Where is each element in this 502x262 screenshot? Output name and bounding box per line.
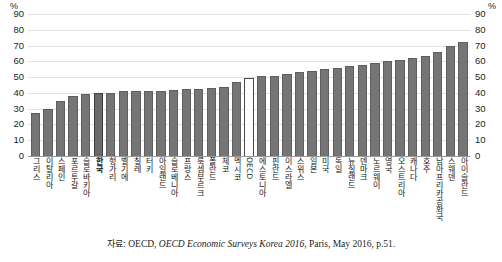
y-tick-left-90: 90 xyxy=(13,9,24,19)
x-label-헝가리: 헝가리 xyxy=(106,157,115,181)
bar-slot xyxy=(318,14,331,156)
x-label-스페인: 스페인 xyxy=(56,157,65,181)
bar-노르웨이 xyxy=(370,63,379,156)
y-tick-right-30: 30 xyxy=(475,104,486,114)
source-prefix: 자료: xyxy=(107,239,126,249)
x-label-룩셈부르크: 룩셈부르크 xyxy=(195,157,204,197)
y-axis-unit-right: % xyxy=(488,1,496,11)
label-slot: 멕시코 xyxy=(230,157,243,229)
bar-slot xyxy=(331,14,344,156)
bar-프랑스 xyxy=(182,89,191,156)
label-slot: 캐나다 xyxy=(406,157,419,229)
label-slot: 일본 xyxy=(306,157,319,229)
bar-slot xyxy=(281,14,294,156)
label-slot: 스페인 xyxy=(54,157,67,229)
bar-체코 xyxy=(219,87,228,156)
x-label-아일랜드: 아일랜드 xyxy=(157,157,166,189)
x-label-일본: 일본 xyxy=(308,157,317,173)
bar-한국 xyxy=(94,93,103,156)
bar-헝가리 xyxy=(106,93,115,156)
x-label-뉴질랜드: 뉴질랜드 xyxy=(345,157,354,189)
x-label-스위스: 스위스 xyxy=(295,157,304,181)
bar-룩셈부르크 xyxy=(194,89,203,156)
x-label-남아프리카공화국: 남아프리카공화국 xyxy=(433,157,442,221)
x-label-오스트리아: 오스트리아 xyxy=(396,157,405,197)
bar-slot xyxy=(205,14,218,156)
label-slot: 독일 xyxy=(331,157,344,229)
bar-slot xyxy=(230,14,243,156)
y-tick-right-40: 40 xyxy=(475,88,486,98)
y-tick-right-50: 50 xyxy=(475,72,486,82)
x-label-스웨덴: 스웨덴 xyxy=(446,157,455,181)
label-slot: 스웨덴 xyxy=(444,157,457,229)
bar-슬로베니아 xyxy=(169,90,178,156)
label-slot: 체코 xyxy=(218,157,231,229)
bar-터키 xyxy=(144,91,153,156)
x-label-칠레: 칠레 xyxy=(132,157,141,173)
bar-영국 xyxy=(383,61,392,156)
x-label-독일: 독일 xyxy=(333,157,342,173)
bar-폴란드 xyxy=(207,88,216,156)
y-tick-right-20: 20 xyxy=(475,119,486,129)
label-slot: OECD xyxy=(243,157,256,229)
label-slot: 폴란드 xyxy=(205,157,218,229)
bar-핀란드 xyxy=(270,76,279,156)
bar-slot xyxy=(218,14,231,156)
y-tick-right-70: 70 xyxy=(475,41,486,51)
y-tick-right-60: 60 xyxy=(475,56,486,66)
bar-slot xyxy=(180,14,193,156)
x-label-캐나다: 캐나다 xyxy=(408,157,417,181)
x-label-터키: 터키 xyxy=(144,157,153,173)
y-tick-left-70: 70 xyxy=(13,41,24,51)
bar-slot xyxy=(54,14,67,156)
bar-slot xyxy=(104,14,117,156)
source-org: OECD, xyxy=(128,239,156,249)
bar-series xyxy=(28,14,470,156)
label-slot: 헝가리 xyxy=(104,157,117,229)
bar-오스트리아 xyxy=(395,60,404,156)
label-slot: 이스라엘 xyxy=(281,157,294,229)
bar-slot xyxy=(268,14,281,156)
bar-slot xyxy=(79,14,92,156)
y-tick-left-20: 20 xyxy=(13,119,24,129)
y-tick-right-10: 10 xyxy=(475,135,486,145)
label-slot: 한국 xyxy=(92,157,105,229)
bar-스웨덴 xyxy=(446,46,455,156)
label-slot: 스위스 xyxy=(293,157,306,229)
x-label-한국: 한국 xyxy=(94,157,103,173)
y-tick-right-0: 0 xyxy=(475,151,480,161)
x-label-폴란드: 폴란드 xyxy=(207,157,216,181)
bar-뉴질랜드 xyxy=(345,66,354,156)
label-slot: 포르투갈 xyxy=(67,157,80,229)
bar-slot xyxy=(444,14,457,156)
label-slot: 벨기에 xyxy=(117,157,130,229)
bar-칠레 xyxy=(131,91,140,156)
x-label-멕시코: 멕시코 xyxy=(232,157,241,181)
bar-이스라엘 xyxy=(282,74,291,156)
source-caption: 자료: OECD, OECD Economic Surveys Korea 20… xyxy=(0,238,502,250)
bar-slot xyxy=(394,14,407,156)
bar-slot xyxy=(343,14,356,156)
x-label-OECD: OECD xyxy=(245,157,254,179)
y-tick-left-40: 40 xyxy=(13,88,24,98)
label-slot: 슬로베니아 xyxy=(167,157,180,229)
x-axis-category-labels: 그리스이탈리아스페인포르투갈슬로바키아한국헝가리벨기에칠레터키아일랜드슬로베니아… xyxy=(28,157,470,229)
label-slot: 호주 xyxy=(419,157,432,229)
plot-area: 00101020203030404050506060707080809090 xyxy=(28,14,470,156)
bar-slot xyxy=(167,14,180,156)
label-slot: 미국 xyxy=(318,157,331,229)
x-label-에스토니아: 에스토니아 xyxy=(257,157,266,197)
bar-그리스 xyxy=(31,113,40,156)
bar-slot xyxy=(381,14,394,156)
y-tick-left-30: 30 xyxy=(13,104,24,114)
label-slot: 핀란드 xyxy=(268,157,281,229)
bar-slot xyxy=(243,14,256,156)
label-slot: 칠레 xyxy=(130,157,143,229)
y-tick-left-80: 80 xyxy=(13,25,24,35)
source-title: OECD Economic Surveys Korea 2016 xyxy=(159,239,304,249)
x-label-호주: 호주 xyxy=(421,157,430,173)
bar-slot xyxy=(193,14,206,156)
x-label-이탈리아: 이탈리아 xyxy=(44,157,53,189)
bar-slot xyxy=(92,14,105,156)
source-rest: , Paris, May 2016, p.51. xyxy=(304,239,395,249)
